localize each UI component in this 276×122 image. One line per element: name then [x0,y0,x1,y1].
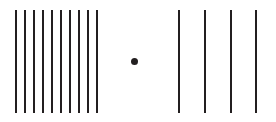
left-dense-group-line-10 [96,10,98,113]
line-spacing-figure [0,0,276,122]
left-dense-group-line-1 [15,10,17,113]
left-dense-group-line-6 [60,10,62,113]
right-sparse-group-line-2 [204,10,206,113]
left-dense-group-line-4 [42,10,44,113]
right-sparse-group-line-1 [178,10,180,113]
left-dense-group-line-3 [33,10,35,113]
left-dense-group-line-5 [51,10,53,113]
left-dense-group-line-2 [24,10,26,113]
right-sparse-group-line-3 [230,10,232,113]
center-reference-dot [131,58,138,65]
left-dense-group-line-9 [87,10,89,113]
right-sparse-group-line-4 [255,10,257,113]
left-dense-group-line-8 [78,10,80,113]
left-dense-group-line-7 [69,10,71,113]
